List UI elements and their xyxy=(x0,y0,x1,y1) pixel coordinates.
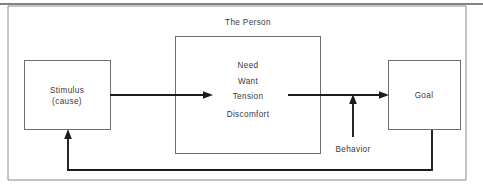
motivation-cycle-diagram: The Person Stimulus (cause) Need Want Te… xyxy=(0,0,483,190)
person-item-need: Need xyxy=(238,61,259,70)
stimulus-label-line1: Stimulus xyxy=(50,86,84,95)
person-item-want: Want xyxy=(238,77,259,86)
diagram-canvas: The Person Stimulus (cause) Need Want Te… xyxy=(0,0,483,190)
feedback-loop-arrowhead xyxy=(64,129,72,139)
person-item-discomfort: Discomfort xyxy=(227,110,270,119)
stimulus-box xyxy=(25,61,111,130)
behavior-label: Behavior xyxy=(335,145,370,154)
person-item-tension: Tension xyxy=(233,92,264,101)
stimulus-to-person-arrowhead xyxy=(203,91,213,99)
person-title-label: The Person xyxy=(225,18,271,27)
person-to-goal-arrowhead xyxy=(379,91,389,99)
goal-label: Goal xyxy=(415,91,434,100)
feedback-loop-line xyxy=(68,130,432,170)
stimulus-label-line2: (cause) xyxy=(52,97,82,106)
